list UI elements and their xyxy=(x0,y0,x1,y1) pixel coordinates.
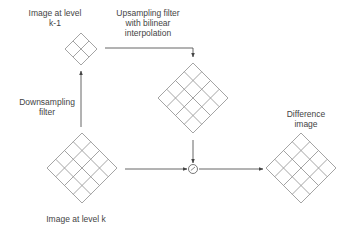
difference-image-grid xyxy=(266,133,336,203)
label-image-level-k-minus-1: Image at level k-1 xyxy=(22,8,88,28)
upsampled-image-grid xyxy=(158,63,228,133)
subtract-operator-icon xyxy=(189,165,198,174)
image-level-k-grid xyxy=(47,133,117,203)
label-difference-image: Difference image xyxy=(276,109,336,129)
image-level-k-minus-1-grid xyxy=(65,33,97,65)
label-upsampling-filter: Upsampling filter with bilinear interpol… xyxy=(108,8,188,38)
upsampling-arrow xyxy=(105,48,193,57)
label-downsampling-filter: Downsampling filter xyxy=(14,97,80,117)
label-image-level-k: Image at level k xyxy=(38,214,114,224)
